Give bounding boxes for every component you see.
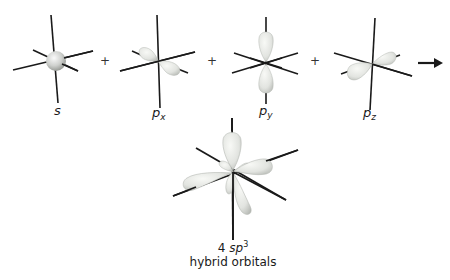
hybrid-caption-line1: 4 sp3 [173, 238, 293, 255]
pz-orbital [334, 18, 412, 110]
plus-sign-1: + [100, 54, 110, 68]
px-orbital-label: px [152, 105, 166, 122]
hybrid-type: sp [229, 241, 243, 255]
hybrid-caption-line2: hybrid orbitals [173, 255, 293, 269]
py-orbital-label: py [259, 103, 273, 120]
orbital-count: 4 [218, 241, 226, 255]
px-orbital [120, 15, 195, 108]
sp3-hybrid-orbitals [173, 118, 298, 240]
s-orbital-label: s [54, 103, 61, 118]
hybrid-caption: 4 sp3 hybrid orbitals [173, 238, 293, 269]
label-main: s [54, 103, 61, 118]
yields-arrow-icon [418, 58, 443, 68]
hybrid-type-superscript: 3 [243, 240, 248, 249]
plus-sign-2: + [207, 54, 217, 68]
pz-orbital-label: pz [363, 105, 376, 122]
s-orbital [13, 15, 93, 103]
py-orbital [232, 17, 298, 104]
label-subscript: z [371, 112, 376, 122]
label-subscript: y [267, 110, 272, 120]
plus-sign-3: + [310, 54, 320, 68]
label-subscript: x [160, 112, 165, 122]
s-sphere-icon [46, 51, 66, 71]
